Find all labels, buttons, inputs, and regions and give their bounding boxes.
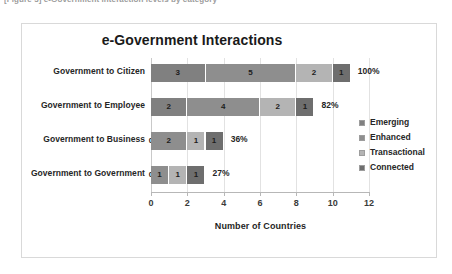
- legend-item[interactable]: Connected: [359, 161, 437, 176]
- x-axis-tick: [224, 192, 225, 196]
- bar-segment-value: 2: [151, 98, 186, 116]
- bar-segment-value: 1: [296, 98, 313, 116]
- legend-label: Enhanced: [370, 131, 411, 144]
- clipped-page-caption: [Figure 3] e-Government interaction leve…: [0, 0, 452, 9]
- bar-segment[interactable]: 2: [296, 64, 332, 82]
- legend-swatch-icon: [359, 135, 365, 141]
- bar-segment[interactable]: 4: [187, 98, 260, 116]
- bar-row: Government to Employee242182%: [151, 98, 369, 116]
- plot-area: Government to Citizen3521100%Government …: [151, 58, 369, 192]
- bar-segment[interactable]: 2: [151, 132, 187, 150]
- bar-row: Government to Citizen3521100%: [151, 64, 369, 82]
- bar-total-percent-label: 100%: [358, 66, 380, 76]
- bar-segment[interactable]: 5: [206, 64, 297, 82]
- bar-segment-value: 1: [169, 166, 186, 184]
- chart-title: e-Government Interactions: [22, 32, 362, 48]
- x-axis-tick-label: 12: [357, 198, 381, 208]
- legend-swatch-icon: [359, 165, 365, 171]
- category-label: Government to Business: [43, 134, 145, 144]
- bar-segment-value: 1: [333, 64, 350, 82]
- clipped-caption-text: [Figure 3] e-Government interaction leve…: [0, 0, 452, 4]
- bar-segment[interactable]: 3: [151, 64, 206, 82]
- bar-total-percent-label: 27%: [213, 168, 230, 178]
- bar-total-percent-label: 82%: [322, 100, 339, 110]
- x-axis-tick: [151, 192, 152, 196]
- x-axis-tick: [333, 192, 334, 196]
- bar-segment-value: 1: [187, 166, 204, 184]
- x-axis-tick: [296, 192, 297, 196]
- x-axis-title: Number of Countries: [151, 221, 370, 231]
- legend-label: Connected: [370, 161, 414, 174]
- category-label: Government to Government: [31, 168, 145, 178]
- bar-segment[interactable]: 2: [151, 98, 187, 116]
- chart-legend: Emerging Enhanced Transactional Connecte…: [359, 116, 437, 176]
- category-label: Government to Citizen: [53, 66, 145, 76]
- x-axis-tick-label: 4: [212, 198, 236, 208]
- legend-label: Transactional: [370, 146, 425, 159]
- category-label: Government to Employee: [41, 100, 145, 110]
- bar-segment[interactable]: 1: [169, 166, 187, 184]
- bar-segment[interactable]: 1: [206, 132, 224, 150]
- legend-item[interactable]: Transactional: [359, 146, 437, 161]
- bar-segment[interactable]: 1: [296, 98, 314, 116]
- bar-segment-value: 1: [187, 132, 204, 150]
- bar-segment[interactable]: 1: [187, 132, 205, 150]
- bar-segment[interactable]: 1: [333, 64, 351, 82]
- bar-row: Government to Government011127%: [151, 166, 369, 184]
- legend-item[interactable]: Enhanced: [359, 131, 437, 146]
- bar-row: Government to Business021136%: [151, 132, 369, 150]
- bar-segment-value: 5: [206, 64, 296, 82]
- bar-segment-value: 2: [260, 98, 295, 116]
- legend-item[interactable]: Emerging: [359, 116, 437, 131]
- bar-segment-value: 1: [151, 166, 168, 184]
- bar-segment-value: 4: [187, 98, 259, 116]
- chart-container: e-Government Interactions Government to …: [21, 23, 437, 258]
- legend-swatch-icon: [359, 150, 365, 156]
- x-axis-tick-label: 0: [139, 198, 163, 208]
- bar-segment-value: 3: [151, 64, 205, 82]
- x-axis-tick-label: 10: [321, 198, 345, 208]
- legend-swatch-icon: [359, 120, 365, 126]
- x-axis-tick: [187, 192, 188, 196]
- x-axis-tick-label: 2: [175, 198, 199, 208]
- bar-total-percent-label: 36%: [231, 134, 248, 144]
- bar-segment[interactable]: 1: [151, 166, 169, 184]
- x-axis-tick: [260, 192, 261, 196]
- x-axis-tick-label: 6: [248, 198, 272, 208]
- bar-segment-value: 2: [151, 132, 186, 150]
- bar-segment[interactable]: 2: [260, 98, 296, 116]
- x-axis-tick-label: 8: [284, 198, 308, 208]
- bar-segment-value: 2: [296, 64, 331, 82]
- bar-segment-value: 1: [206, 132, 223, 150]
- legend-label: Emerging: [370, 116, 409, 129]
- x-axis-tick: [369, 192, 370, 196]
- bar-segment[interactable]: 1: [187, 166, 205, 184]
